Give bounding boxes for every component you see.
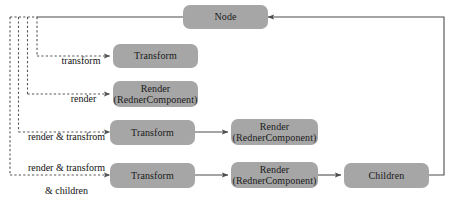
edge-label-branch-4-line2: & children: [45, 185, 88, 196]
edge-label-branch-2: render: [48, 81, 109, 116]
render-3-label-line1: Render: [260, 164, 289, 176]
node-box-children[interactable]: Children: [344, 163, 429, 188]
transform-3-label: Transform: [131, 170, 174, 182]
render-1-label-line2: (RednerComponent): [114, 94, 198, 106]
render-2-label-line1: Render: [260, 121, 289, 133]
transform-2-label: Transform: [131, 127, 174, 139]
edge-label-branch-4-line1: render & transform: [28, 162, 105, 173]
pipeline-diagram: Node Transform Render (RednerComponent) …: [0, 0, 455, 198]
edge-label-branch-2-text: render: [71, 93, 97, 104]
node-box-node[interactable]: Node: [183, 5, 268, 29]
node-box-render-1[interactable]: Render (RednerComponent): [113, 81, 198, 107]
edge-label-branch-3-text: render & transfrom: [28, 131, 105, 142]
children-label: Children: [369, 170, 405, 182]
node-box-transform-1[interactable]: Transform: [113, 44, 198, 68]
edge-label-branch-4: render & transform & children: [14, 150, 109, 198]
node-box-render-3[interactable]: Render (RednerComponent): [231, 162, 318, 188]
edge-children-to-node-return: [268, 17, 444, 175]
node-label: Node: [214, 11, 236, 23]
render-1-label-line1: Render: [141, 83, 170, 95]
render-3-label-line2: (RednerComponent): [233, 175, 317, 187]
node-box-render-2[interactable]: Render (RednerComponent): [231, 119, 318, 145]
edge-label-branch-3: render & transfrom: [14, 119, 109, 154]
edge-label-branch-1-text: transform: [62, 55, 101, 66]
node-box-transform-3[interactable]: Transform: [110, 163, 195, 188]
node-box-transform-2[interactable]: Transform: [110, 120, 195, 145]
transform-1-label: Transform: [134, 50, 177, 62]
render-2-label-line2: (RednerComponent): [233, 132, 317, 144]
edge-label-branch-1: transform: [43, 43, 109, 78]
